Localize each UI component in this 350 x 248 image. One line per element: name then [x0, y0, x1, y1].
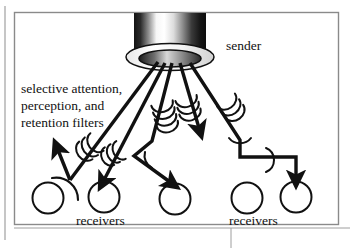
- filters-label-line3: retention filters: [21, 115, 104, 130]
- receivers-label-right: receivers: [229, 213, 278, 228]
- filters-label-line2: perception, and: [21, 98, 104, 113]
- receivers-label-left: receivers: [76, 213, 125, 228]
- sender-cylinder: [126, 13, 214, 71]
- filters-label-line1: selective attention,: [21, 81, 122, 96]
- figure-canvas: sender selective attention, perception, …: [0, 0, 350, 248]
- sender-label: sender: [226, 38, 262, 53]
